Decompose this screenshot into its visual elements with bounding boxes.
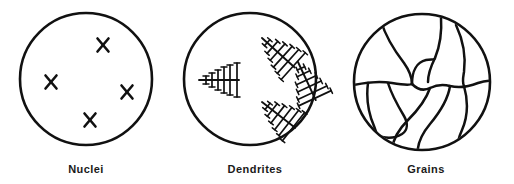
panel-grains: Grains	[338, 0, 514, 184]
dendrites-diagram	[172, 0, 338, 184]
panel-nuclei: Nuclei	[0, 0, 172, 184]
grains-diagram	[338, 0, 514, 184]
dendrites-circle-outline	[184, 13, 316, 145]
grains-caption: Grains	[338, 163, 514, 175]
dendrites-caption: Dendrites	[172, 163, 338, 175]
solidification-stages-figure: Nuclei	[0, 0, 514, 184]
nuclei-diagram	[0, 0, 172, 184]
panel-dendrites: Dendrites	[172, 0, 338, 184]
nuclei-caption: Nuclei	[0, 163, 172, 175]
